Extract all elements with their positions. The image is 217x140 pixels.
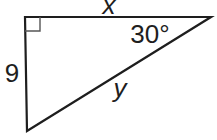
- triangle-diagram: x 30° 9 y: [0, 0, 217, 140]
- label-left-side: 9: [5, 58, 19, 88]
- right-angle-marker: [25, 17, 40, 31]
- label-hypotenuse: y: [112, 73, 129, 103]
- label-top-side: x: [101, 0, 117, 20]
- triangle-svg: x 30° 9 y: [0, 0, 217, 140]
- label-angle: 30°: [130, 19, 169, 49]
